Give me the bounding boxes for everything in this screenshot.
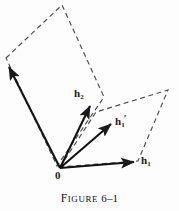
caption-lead-letter: F xyxy=(61,192,68,204)
vector-h1-prime xyxy=(60,124,111,168)
vector-label-h1: h1 xyxy=(141,155,151,166)
vector-upper-left xyxy=(9,67,60,168)
origin-label: 0 xyxy=(55,170,61,181)
figure-caption: FIGURE6–1 xyxy=(0,192,179,204)
caption-word-rest: IGURE xyxy=(68,194,99,204)
label-h1-subscript: 1 xyxy=(147,160,151,168)
figure-container: h2 h1′ h1 0 FIGURE6–1 xyxy=(0,0,179,211)
vector-h2 xyxy=(60,106,90,168)
label-h2-subscript: 2 xyxy=(80,93,84,101)
vector-label-h1-prime: h1′ xyxy=(115,116,127,127)
vector-label-h2: h2 xyxy=(74,88,84,99)
vector-h1 xyxy=(60,162,134,168)
caption-number: 6–1 xyxy=(101,192,118,204)
figure-drawing xyxy=(0,0,179,211)
dashed-parallelogram-right xyxy=(60,90,168,167)
